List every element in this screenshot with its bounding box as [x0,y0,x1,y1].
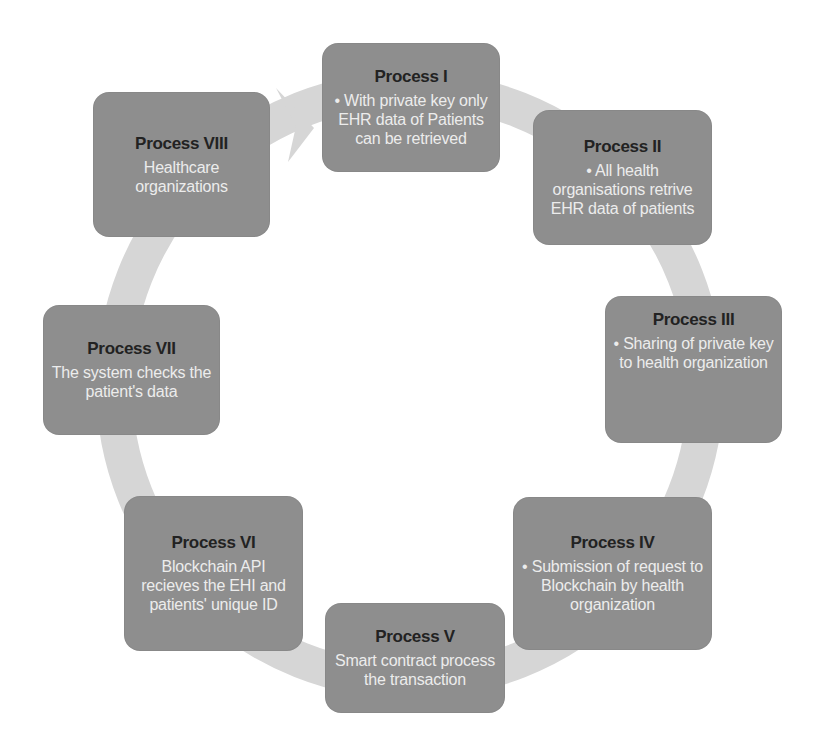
process-title: Process V [375,627,455,647]
process-description: The system checks the patient's data [51,363,212,401]
process-box-1: Process I • With private key only EHR da… [322,43,500,172]
process-description: • Submission of request to Blockchain by… [521,557,704,614]
process-description: Blockchain API recieves the EHI and pati… [132,557,295,614]
process-description: Healthcare organizations [101,158,262,196]
process-box-4: Process IV • Submission of request to Bl… [513,497,712,650]
process-description: • With private key only EHR data of Pati… [330,91,492,148]
process-box-3: Process III • Sharing of private key to … [605,296,782,443]
process-title: Process VII [87,339,175,359]
process-title: Process III [653,310,735,330]
process-box-2: Process II • All health organisations re… [533,110,712,245]
process-box-7: Process VII The system checks the patien… [43,305,220,435]
process-title: Process I [375,67,448,87]
process-description: Smart contract process the transaction [333,651,497,689]
process-description: • All health organisations retrive EHR d… [541,161,704,218]
process-box-5: Process V Smart contract process the tra… [325,603,505,713]
process-description: • Sharing of private key to health organ… [613,334,774,372]
process-title: Process VI [172,533,256,553]
process-title: Process II [584,137,661,157]
process-box-6: Process VI Blockchain API recieves the E… [124,496,303,651]
process-box-8: Process VIII Healthcare organizations [93,92,270,237]
process-title: Process IV [571,533,655,553]
process-title: Process VIII [135,134,228,154]
